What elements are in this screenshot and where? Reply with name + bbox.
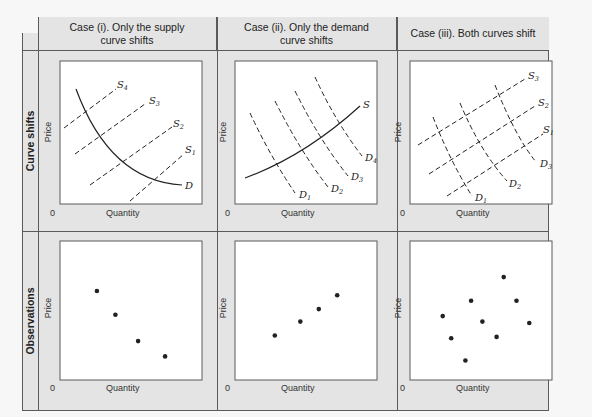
divider-rows bbox=[22, 231, 549, 232]
data-point bbox=[527, 321, 532, 326]
origin-label: 0 bbox=[50, 208, 55, 218]
origin-label: 0 bbox=[400, 383, 405, 393]
svg-text:D: D bbox=[184, 180, 193, 191]
divider-col-2 bbox=[397, 17, 398, 411]
chart-case3-curves: S3 S2 S1 D3 D2 D1 bbox=[410, 61, 553, 205]
data-point bbox=[95, 289, 100, 294]
x-axis-label: Quantity bbox=[456, 208, 490, 218]
x-axis-label: Quantity bbox=[281, 208, 315, 218]
data-point bbox=[163, 354, 168, 359]
data-point bbox=[469, 299, 474, 304]
data-point bbox=[335, 293, 340, 298]
row-label-curve-shifts: Curve shifts bbox=[22, 50, 38, 231]
data-point bbox=[317, 307, 322, 312]
scatter-case1 bbox=[60, 241, 203, 381]
y-axis-label: Price bbox=[393, 122, 403, 143]
x-axis-label: Quantity bbox=[281, 383, 315, 393]
data-point bbox=[440, 314, 445, 319]
svg-text:S: S bbox=[363, 99, 370, 110]
x-axis-label: Quantity bbox=[106, 383, 140, 393]
divider-col-1 bbox=[217, 17, 218, 411]
data-point bbox=[298, 319, 303, 324]
divider-rowlabel bbox=[38, 17, 39, 411]
data-point bbox=[463, 358, 468, 363]
data-point bbox=[113, 312, 118, 317]
y-axis-label: Price bbox=[43, 122, 53, 143]
origin-label: 0 bbox=[400, 208, 405, 218]
header-case-2: Case (ii). Only the demandcurve shifts bbox=[217, 17, 397, 50]
data-point bbox=[494, 335, 499, 340]
y-axis-label: Price bbox=[43, 298, 53, 319]
data-point bbox=[449, 336, 454, 341]
chart-case1-curves: S4 S3 S2 S1 D bbox=[60, 61, 203, 205]
data-point bbox=[136, 339, 141, 344]
data-point bbox=[501, 275, 506, 280]
data-point bbox=[514, 299, 519, 304]
chart-case2-curves: S D4 D3 D2 D1 bbox=[235, 61, 378, 205]
header-case-3: Case (iii). Both curves shift bbox=[397, 17, 549, 50]
x-axis-label: Quantity bbox=[456, 383, 490, 393]
row-label-observations: Observations bbox=[22, 231, 38, 411]
y-axis-label: Price bbox=[218, 122, 228, 143]
scatter-case3 bbox=[410, 241, 553, 381]
data-point bbox=[273, 333, 278, 338]
y-axis-label: Price bbox=[393, 298, 403, 319]
origin-label: 0 bbox=[225, 208, 230, 218]
scatter-case2 bbox=[235, 241, 378, 381]
header-case-1: Case (i). Only the supplycurve shifts bbox=[38, 17, 217, 50]
x-axis-label: Quantity bbox=[106, 208, 140, 218]
divider-header bbox=[22, 50, 549, 51]
origin-label: 0 bbox=[225, 383, 230, 393]
y-axis-label: Price bbox=[218, 298, 228, 319]
header-corner bbox=[22, 0, 38, 33]
origin-label: 0 bbox=[50, 383, 55, 393]
data-point bbox=[480, 319, 485, 324]
